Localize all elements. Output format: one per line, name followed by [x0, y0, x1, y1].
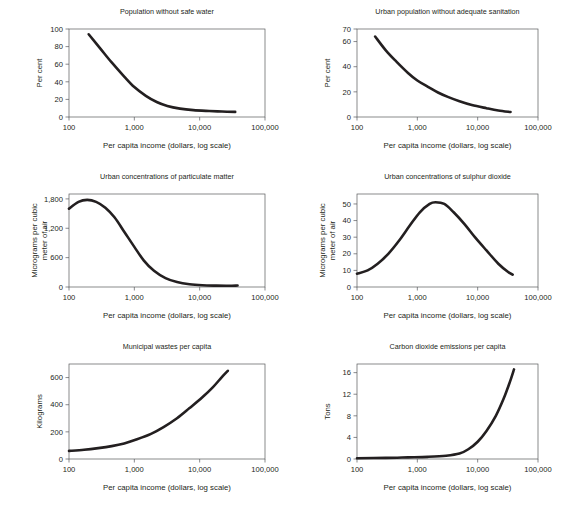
x-tick-label: 10,000 — [188, 465, 211, 474]
x-tick-label: 1,000 — [408, 465, 427, 474]
y-tick-label: 16 — [343, 368, 351, 377]
y-axis-title: Micrograms per cubic — [318, 203, 327, 278]
plot-frame — [69, 364, 265, 459]
chart-title: Urban concentrations of particulate matt… — [100, 172, 234, 181]
y-axis-title: meter of air — [40, 220, 49, 260]
x-tick-label: 100 — [63, 123, 76, 132]
x-tick-label: 1,000 — [408, 293, 427, 302]
x-tick-label: 100,000 — [251, 123, 278, 132]
y-tick-label: 1,800 — [44, 195, 63, 204]
x-axis-title: Per capita income (dollars, log scale) — [103, 311, 231, 320]
y-tick-label: 400 — [50, 400, 63, 409]
y-axis-title: meter of air — [328, 220, 337, 260]
panel-urban-concentrations-of-sulphur-dioxide: Urban concentrations of sulphur dioxide0… — [291, 165, 583, 335]
y-tick-label: 0 — [347, 283, 351, 292]
y-tick-label: 20 — [343, 88, 351, 97]
y-tick-label: 40 — [55, 78, 63, 87]
x-tick-label: 100,000 — [524, 293, 551, 302]
data-curve — [69, 371, 228, 451]
plot-frame — [69, 194, 265, 287]
y-tick-label: 40 — [343, 62, 351, 71]
y-axis-title: Micrograms per cubic — [30, 203, 39, 278]
x-axis-title: Per capita income (dollars, log scale) — [103, 141, 231, 150]
y-axis-title: Tons — [323, 403, 332, 420]
data-curve — [69, 200, 238, 286]
plot-frame — [69, 29, 265, 117]
x-axis-title: Per capita income (dollars, log scale) — [384, 483, 512, 492]
x-tick-label: 10,000 — [466, 123, 489, 132]
data-curve — [357, 369, 514, 458]
x-tick-label: 100 — [63, 293, 76, 302]
chart-title: Urban concentrations of sulphur dioxide — [384, 172, 511, 181]
y-tick-label: 70 — [343, 25, 351, 34]
x-tick-label: 100,000 — [524, 123, 551, 132]
y-tick-label: 60 — [55, 60, 63, 69]
x-tick-label: 100,000 — [251, 465, 278, 474]
y-tick-label: 10 — [343, 266, 351, 275]
chart-grid: Population without safe water02040608010… — [0, 0, 583, 507]
x-tick-label: 100,000 — [524, 465, 551, 474]
y-tick-label: 40 — [343, 216, 351, 225]
x-axis-title: Per capita income (dollars, log scale) — [384, 311, 512, 320]
chart-title: Carbon dioxide emissions per capita — [390, 342, 506, 351]
y-axis-title: Kilograms — [35, 394, 44, 429]
x-tick-label: 100 — [351, 123, 364, 132]
panel-municipal-wastes-per-capita: Municipal wastes per capita0200400600100… — [0, 335, 291, 507]
x-tick-label: 1,000 — [125, 293, 144, 302]
x-axis-title: Per capita income (dollars, log scale) — [103, 483, 231, 492]
y-tick-label: 20 — [55, 95, 63, 104]
panel-urban-population-without-adequate-sanitation: Urban population without adequate sanita… — [291, 0, 583, 165]
y-tick-label: 600 — [50, 253, 63, 262]
x-axis-title: Per capita income (dollars, log scale) — [384, 141, 512, 150]
y-tick-label: 100 — [50, 25, 63, 34]
x-tick-label: 100 — [351, 293, 364, 302]
x-tick-label: 1,000 — [408, 123, 427, 132]
panel-population-without-safe-water: Population without safe water02040608010… — [0, 0, 291, 165]
y-tick-label: 600 — [50, 373, 63, 382]
x-tick-label: 10,000 — [466, 465, 489, 474]
y-tick-label: 0 — [347, 113, 351, 122]
y-tick-label: 0 — [59, 455, 63, 464]
y-axis-title: Per cent — [323, 58, 332, 88]
panel-carbon-dioxide-emissions-per-capita: Carbon dioxide emissions per capita04812… — [291, 335, 583, 507]
y-tick-label: 8 — [347, 412, 351, 421]
y-tick-label: 50 — [343, 200, 351, 209]
y-tick-label: 200 — [50, 428, 63, 437]
x-tick-label: 100 — [351, 465, 364, 474]
y-tick-label: 0 — [347, 455, 351, 464]
panel-urban-concentrations-of-particulate-matter: Urban concentrations of particulate matt… — [0, 165, 291, 335]
y-tick-label: 30 — [343, 233, 351, 242]
x-tick-label: 10,000 — [188, 123, 211, 132]
y-tick-label: 12 — [343, 390, 351, 399]
plot-frame — [357, 29, 538, 117]
x-tick-label: 1,000 — [125, 465, 144, 474]
chart-title: Urban population without adequate sanita… — [375, 7, 519, 16]
y-tick-label: 4 — [347, 433, 351, 442]
y-tick-label: 80 — [55, 42, 63, 51]
y-axis-title: Per cent — [35, 58, 44, 88]
y-tick-label: 60 — [343, 37, 351, 46]
x-tick-label: 10,000 — [188, 293, 211, 302]
y-tick-label: 20 — [343, 249, 351, 258]
x-tick-label: 100,000 — [251, 293, 278, 302]
y-tick-label: 0 — [59, 113, 63, 122]
chart-title: Population without safe water — [120, 7, 215, 16]
chart-title: Municipal wastes per capita — [123, 342, 211, 351]
x-tick-label: 1,000 — [125, 123, 144, 132]
x-tick-label: 10,000 — [466, 293, 489, 302]
data-curve — [357, 202, 513, 274]
y-tick-label: 0 — [59, 283, 63, 292]
data-curve — [89, 34, 236, 112]
x-tick-label: 100 — [63, 465, 76, 474]
data-curve — [375, 37, 510, 112]
